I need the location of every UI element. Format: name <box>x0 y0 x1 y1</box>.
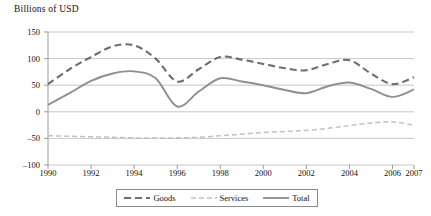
axis-lines-group <box>44 32 48 165</box>
x-tick-label: 1990 <box>28 169 68 178</box>
legend-swatch-total-icon <box>263 195 289 201</box>
gridlines-group <box>48 32 414 165</box>
legend-label: Goods <box>153 194 175 203</box>
chart-figure: Billions of USD 150100500–50–100 1990199… <box>0 0 431 216</box>
x-tick-label: 1996 <box>157 169 197 178</box>
x-tick-label: 2004 <box>329 169 369 178</box>
legend-item-goods[interactable]: Goods <box>124 194 175 203</box>
x-tick-label: 1994 <box>114 169 154 178</box>
x-tick-label: 2000 <box>243 169 283 178</box>
x-tick-label: 1992 <box>71 169 111 178</box>
series-line-total <box>48 71 414 107</box>
legend-item-total[interactable]: Total <box>263 194 309 203</box>
x-tick-label: 1998 <box>200 169 240 178</box>
legend-label: Services <box>220 194 249 203</box>
y-tick-label: –50 <box>6 134 40 143</box>
legend-swatch-goods-icon <box>124 195 150 201</box>
series-line-services <box>48 122 414 138</box>
y-tick-label: 50 <box>6 81 40 90</box>
x-tick-label: 2002 <box>286 169 326 178</box>
y-tick-label: 150 <box>6 28 40 37</box>
x-tick-label: 2007 <box>394 169 431 178</box>
chart-legend: GoodsServicesTotal <box>116 189 318 207</box>
chart-plot-area <box>0 0 431 216</box>
y-tick-label: 0 <box>6 108 40 117</box>
legend-swatch-services-icon <box>191 195 217 201</box>
y-tick-label: 100 <box>6 55 40 64</box>
legend-label: Total <box>292 194 309 203</box>
legend-item-services[interactable]: Services <box>191 194 249 203</box>
